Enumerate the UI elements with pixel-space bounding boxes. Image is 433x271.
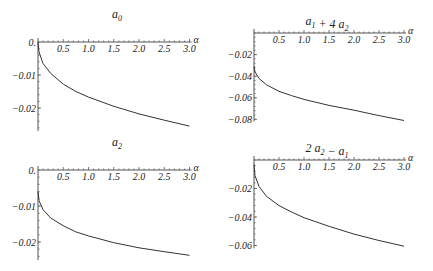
x-tick-label: 1.0 [298, 161, 311, 172]
y-tick-label: −0.02 [228, 49, 252, 60]
x-tick-label: 2.0 [348, 34, 361, 45]
x-tick-label: 2.0 [348, 161, 361, 172]
plot-panel-2: a1 + 4 a20.51.01.52.02.53.0α−0.02−0.04−0… [216, 0, 433, 136]
plot-panel-1: a00.51.01.52.02.53.0α0.−0.01−0.02 [0, 0, 217, 136]
x-tick-label: 2.5 [373, 161, 386, 172]
plot-panel-4: 2 a2 − a10.51.01.52.02.53.0α−0.02−0.04−0… [216, 128, 433, 264]
x-tick-label: 0.5 [57, 171, 70, 182]
x-axis-label: α [194, 34, 200, 45]
x-tick-label: 2.0 [133, 171, 146, 182]
x-tick-label: 0.5 [273, 34, 286, 45]
y-tick-label: 0. [29, 37, 37, 48]
data-curve [38, 42, 190, 126]
y-tick-label: −0.06 [228, 92, 252, 103]
x-tick-label: 1.0 [298, 34, 311, 45]
x-tick-label: 1.5 [323, 161, 336, 172]
y-tick-label: −0.04 [228, 212, 252, 223]
y-tick-label: −0.01 [12, 70, 36, 81]
y-tick-label: −0.08 [228, 114, 252, 125]
y-tick-label: −0.02 [12, 237, 36, 248]
y-tick-label: −0.01 [12, 201, 36, 212]
x-axis-label: α [408, 25, 414, 36]
x-tick-label: 1.0 [82, 171, 95, 182]
plot-title: a1 + 4 a2 [305, 14, 348, 33]
plot-title: a2 [112, 135, 122, 151]
plot-title: 2 a2 − a1 [305, 141, 348, 160]
x-tick-label: 1.5 [108, 43, 121, 54]
plot-panel-3: a20.51.01.52.02.53.0α0.−0.01−0.02 [0, 128, 217, 264]
x-tick-label: 2.5 [158, 43, 171, 54]
y-tick-label: −0.04 [228, 71, 252, 82]
x-tick-label: 0.5 [57, 43, 70, 54]
y-tick-label: −0.02 [12, 103, 36, 114]
x-tick-label: 1.0 [82, 43, 95, 54]
x-tick-label: 1.5 [323, 34, 336, 45]
x-axis-label: α [194, 162, 200, 173]
y-tick-label: 0. [29, 165, 37, 176]
data-curve [254, 164, 404, 246]
y-tick-label: −0.02 [228, 183, 252, 194]
plot-title: a0 [112, 7, 122, 23]
x-tick-label: 2.5 [373, 34, 386, 45]
x-tick-label: 2.0 [133, 43, 146, 54]
x-tick-label: 2.5 [158, 171, 171, 182]
data-curve [254, 67, 404, 121]
x-tick-label: 1.5 [108, 171, 121, 182]
x-tick-label: 0.5 [273, 161, 286, 172]
data-curve [38, 192, 190, 256]
x-axis-label: α [408, 152, 414, 163]
y-tick-label: −0.06 [228, 240, 252, 251]
